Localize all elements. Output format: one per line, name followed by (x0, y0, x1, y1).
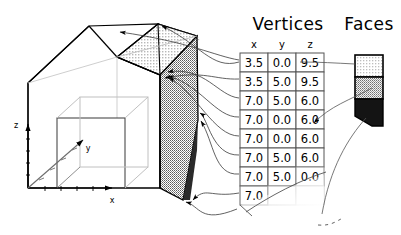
table-row[interactable]: 3.5 5.0 9.5 (240, 72, 324, 91)
cell-value-x: 3.5 (245, 75, 263, 89)
faces-cell-medium[interactable] (355, 77, 383, 99)
cell-value-y: 0.0 (273, 56, 291, 70)
column-header-x: x (251, 39, 257, 50)
cell-value-z: 6.0 (301, 113, 319, 127)
cell-value-z: 9.5 (301, 75, 319, 89)
x-axis-label: x (110, 196, 115, 205)
z-axis-label: z (14, 121, 18, 130)
y-axis-label: y (86, 144, 91, 153)
cell-value-x: 7.0 (245, 113, 263, 127)
diagram-canvas: z x y Vertices x y z 3.5 0.0 9.5 (0, 0, 401, 235)
column-header-y: y (279, 39, 285, 50)
table-row[interactable]: 7.0 5.0 6.0 (240, 148, 324, 167)
cell-value-x: 7.0 (245, 151, 263, 165)
cell-value-y: 5.0 (273, 151, 291, 165)
cell-value-z: 6.0 (301, 132, 319, 146)
cell-value-y: 5.0 (273, 75, 291, 89)
cell-value-z: 9.5 (301, 56, 319, 70)
cell-value-z: 6.0 (301, 151, 319, 165)
table-row[interactable]: 7.0 0.0 6.0 (240, 129, 324, 148)
cell-value-x: 3.5 (245, 56, 263, 70)
column-header-z: z (307, 39, 312, 50)
cell-value-y: 5.0 (273, 94, 291, 108)
faces-title: Faces (344, 14, 393, 34)
cell-value-y: 0.0 (273, 132, 291, 146)
table-row[interactable]: 7.0 5.0 6.0 (240, 91, 324, 110)
cell-value-x: 7.0 (245, 94, 263, 108)
cell-value-z: 6.0 (301, 94, 319, 108)
cell-value-y: 0.0 (273, 113, 291, 127)
cell-value-y: 5.0 (273, 170, 291, 184)
cell-value-x: 7.0 (245, 170, 263, 184)
table-row[interactable]: 7.0 0.0 6.0 (240, 110, 324, 129)
faces-cell-light[interactable] (355, 55, 383, 77)
vertices-title: Vertices (252, 14, 323, 34)
cell-value-x: 7.0 (245, 132, 263, 146)
